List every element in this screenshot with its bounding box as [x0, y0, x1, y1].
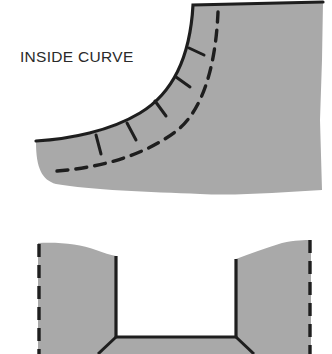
sewing-diagram: INSIDE CURVE [0, 0, 332, 354]
inside-curve-label: INSIDE CURVE [20, 48, 134, 65]
fabric-piece-upper [36, 2, 323, 195]
inside-curve-figure: INSIDE CURVE [20, 2, 323, 195]
corner-figure [38, 240, 311, 354]
notch-outline [116, 256, 236, 337]
